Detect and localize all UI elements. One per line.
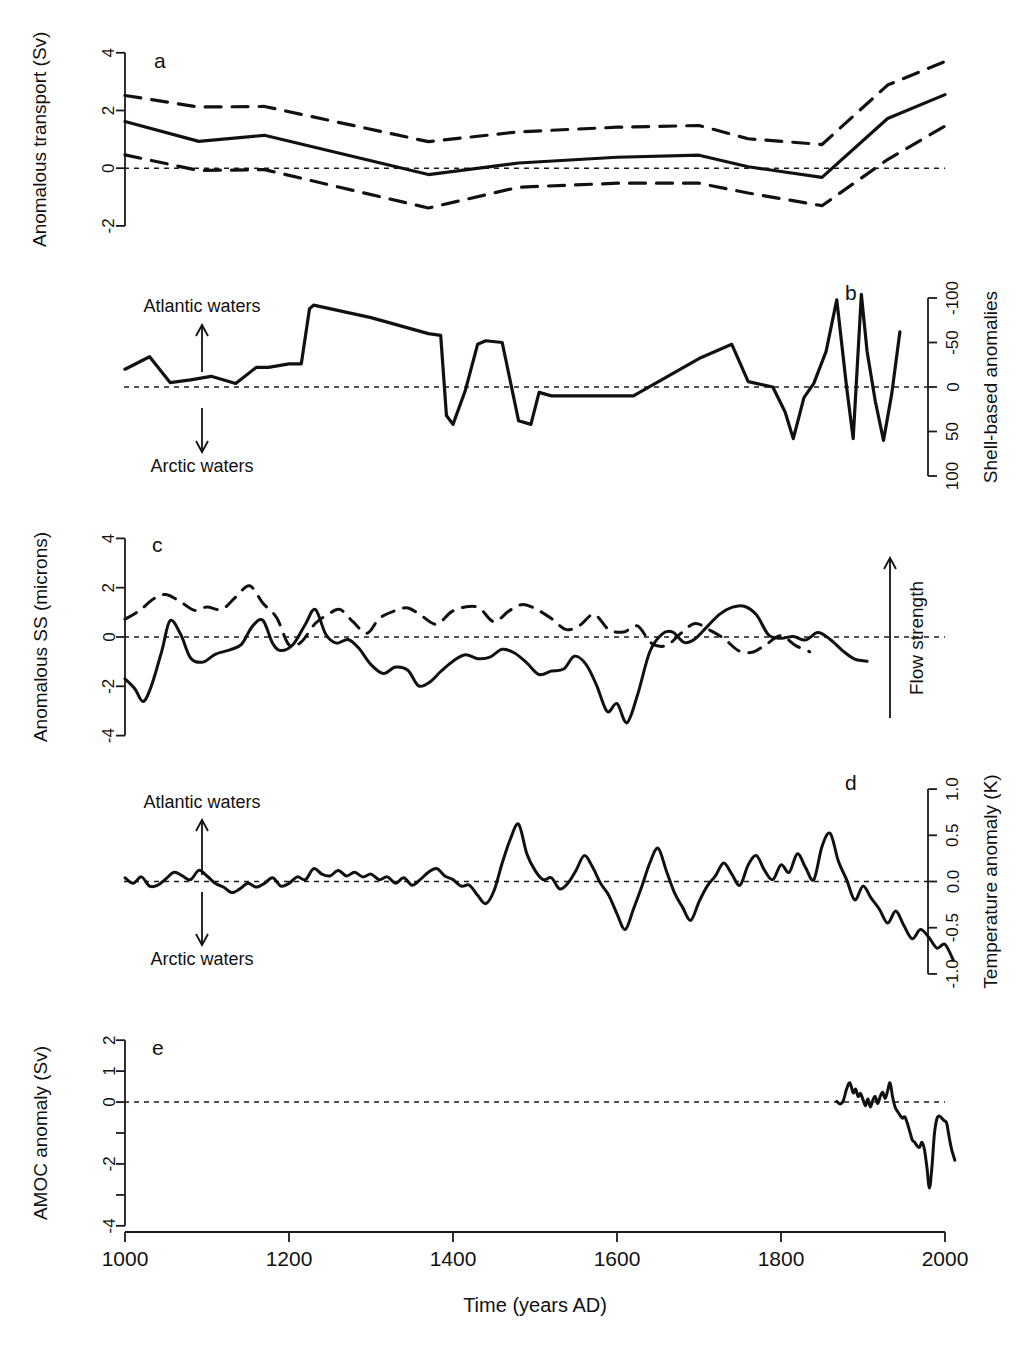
left-tick-label-c-4: 4 [100,534,119,543]
left-tick-label-a-0: -2 [100,218,119,233]
right-axis-title-b: Shell-based anomalies [980,291,1001,483]
right-tick-label-d-1: 0.5 [944,823,963,847]
series-group-a [125,61,945,208]
left-tick-label-c-1: -2 [100,679,119,694]
right-tick-label-d-3: -0.5 [944,913,963,942]
series-b-shell-based-anomaly [125,294,900,440]
left-tick-label-e-2: 0 [100,1097,119,1106]
right-tick-label-d-2: 0.0 [944,870,963,894]
x-axis: 100012001400160018002000Time (years AD) [102,1232,969,1316]
right-tick-label-d-0: 1.0 [944,777,963,801]
series-group-d [125,824,953,960]
x-tick-label-3: 1600 [594,1247,641,1270]
series-group-e [837,1083,955,1188]
arctic-waters-label-b: Arctic waters [150,456,253,476]
panel-label-e: e [152,1036,164,1059]
left-tick-label-e-0: 2 [100,1035,119,1044]
figure-svg: -2024Anomalous transport (Sv)-100-500501… [0,0,1025,1346]
right-tick-label-b-2: 0 [944,382,963,391]
water-annotation-b: Atlantic watersArctic waters [143,296,260,476]
series-group-c [125,586,867,723]
series-group-b [125,294,900,440]
right-tick-label-d-4: -1.0 [944,959,963,988]
left-tick-label-e-1: 1 [100,1066,119,1075]
atlantic-waters-label-d: Atlantic waters [143,792,260,812]
left-axis-title-c: Anomalous SS (microns) [30,532,51,742]
x-tick-label-1: 1200 [266,1247,313,1270]
series-c-record-1-solid [125,606,867,723]
arctic-waters-label-d: Arctic waters [150,949,253,969]
x-axis-title: Time (years AD) [463,1294,607,1316]
panel-label-b: b [845,281,857,304]
left-tick-label-c-3: 2 [100,583,119,592]
left-tick-label-a-2: 2 [100,106,119,115]
left-axis-title-e: AMOC anomaly (Sv) [30,1046,51,1220]
panel-label-c: c [152,533,163,556]
x-tick-label-2: 1400 [430,1247,477,1270]
figure-root: -2024Anomalous transport (Sv)-100-500501… [0,0,1025,1346]
x-tick-label-0: 1000 [102,1247,149,1270]
series-a-upper-bound [125,61,945,144]
series-e-amoc-anomaly [837,1083,955,1188]
water-annotation-d: Atlantic watersArctic waters [143,792,260,969]
flow-strength-annotation: Flow strength [884,558,927,718]
left-tick-label-a-3: 4 [100,48,119,57]
x-tick-label-5: 2000 [922,1247,969,1270]
right-axis-title-d: Temperature anomaly (K) [980,774,1001,988]
left-tick-label-c-2: 0 [100,632,119,641]
panel-e: 210-2-4AMOC anomaly (Sv) [30,1035,946,1233]
series-c-record-2-dashed [125,586,810,653]
panel-label-d: d [845,771,857,794]
x-tick-label-4: 1800 [758,1247,805,1270]
right-tick-label-b-1: -50 [944,330,963,355]
left-tick-label-e-6: -4 [100,1218,119,1233]
panel-a: -2024Anomalous transport (Sv) [30,32,946,247]
left-tick-label-c-0: -4 [100,728,119,743]
flow-strength-label: Flow strength [906,581,927,695]
right-tick-label-b-3: 50 [944,422,963,441]
right-tick-label-b-4: 100 [944,462,963,490]
series-d-temperature-anomaly [125,824,953,960]
right-tick-label-b-0: -100 [944,281,963,315]
left-tick-label-e-4: -2 [100,1156,119,1171]
atlantic-waters-label-b: Atlantic waters [143,296,260,316]
left-tick-label-a-1: 0 [100,163,119,172]
panel-label-a: a [154,49,166,72]
left-axis-title-a: Anomalous transport (Sv) [30,32,51,247]
